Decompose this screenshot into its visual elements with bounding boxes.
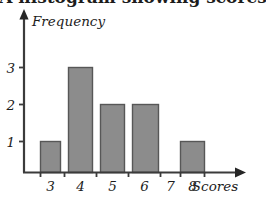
x-tick-label: 5 xyxy=(108,178,117,194)
y-axis xyxy=(19,9,28,173)
bar-rect xyxy=(181,142,205,173)
y-tick-label: 3 xyxy=(6,60,15,76)
x-tick-label: 7 xyxy=(166,178,175,194)
bar-rect xyxy=(69,68,93,173)
bar-rect xyxy=(133,105,159,173)
bar-series xyxy=(41,68,205,173)
bar-rect xyxy=(101,105,125,173)
y-axis-label: Frequency xyxy=(31,13,105,29)
histogram-canvas: 1 2 3 3 4 5 6 7 8 Frequency Scores xyxy=(0,0,266,199)
y-tick-label: 1 xyxy=(6,134,15,150)
x-tick-label: 6 xyxy=(140,178,149,194)
arrow-right-icon xyxy=(235,168,246,178)
x-tick-label: 4 xyxy=(75,178,85,194)
bar-rect xyxy=(41,142,61,173)
arrow-up-icon xyxy=(19,9,28,20)
x-tick-label: 3 xyxy=(46,178,55,194)
y-tick-label: 2 xyxy=(5,97,15,113)
x-axis-label: Scores xyxy=(192,178,238,194)
histogram-figure: 1 2 3 3 4 5 6 7 8 Frequency Scores A his… xyxy=(0,0,266,199)
